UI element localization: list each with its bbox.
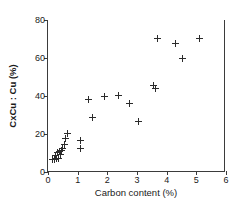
y-tick-label: 0	[40, 168, 45, 177]
x-tick-label: 2	[105, 176, 110, 185]
data-point	[85, 96, 92, 103]
plot-area: 020406080 0123456	[47, 20, 225, 172]
data-point	[154, 35, 161, 42]
data-point	[54, 149, 61, 156]
data-point	[196, 35, 203, 42]
data-points-layer	[48, 20, 226, 172]
data-point	[126, 100, 133, 107]
y-tick-label: 20	[35, 130, 45, 139]
data-point	[62, 135, 69, 142]
x-tick-label: 5	[194, 176, 199, 185]
data-point	[135, 118, 142, 125]
x-tick-label: 3	[134, 176, 139, 185]
data-point	[150, 82, 157, 89]
data-point	[179, 55, 186, 62]
data-point	[101, 93, 108, 100]
data-point	[49, 156, 56, 163]
x-axis-label: Carbon content (%)	[47, 188, 225, 198]
data-point	[53, 155, 60, 162]
data-point	[77, 137, 84, 144]
data-point	[58, 147, 65, 154]
y-tick-label: 80	[35, 16, 45, 25]
data-point	[59, 145, 66, 152]
chart-figure: 020406080 0123456 Carbon content (%) CxC…	[0, 0, 244, 207]
data-point	[61, 141, 68, 148]
y-tick-label: 60	[35, 54, 45, 63]
x-tick-label: 1	[75, 176, 80, 185]
y-tick-label: 40	[35, 92, 45, 101]
data-point	[115, 92, 122, 99]
data-point	[51, 156, 58, 163]
data-point	[56, 148, 63, 155]
data-point	[77, 145, 84, 152]
x-tick-label: 0	[45, 176, 50, 185]
x-tick-label: 6	[223, 176, 228, 185]
data-point	[89, 114, 96, 121]
data-point	[152, 85, 159, 92]
data-point	[57, 151, 64, 158]
data-point	[64, 130, 71, 137]
y-axis-label: CxCu : Cu (%)	[8, 64, 18, 127]
data-point	[172, 40, 179, 47]
x-tick-label: 4	[164, 176, 169, 185]
data-point	[55, 155, 62, 162]
data-point	[52, 152, 59, 159]
